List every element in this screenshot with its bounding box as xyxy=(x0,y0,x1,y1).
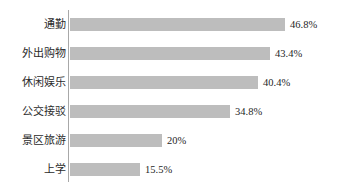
bar xyxy=(70,134,162,147)
bar-row: 公交接驳 34.8% xyxy=(0,105,339,118)
bar xyxy=(70,18,285,31)
bar-row: 上学 15.5% xyxy=(0,163,339,176)
bar xyxy=(70,163,140,176)
value-label: 46.8% xyxy=(290,18,317,31)
bar-row: 外出购物 43.4% xyxy=(0,47,339,60)
category-label: 景区旅游 xyxy=(0,133,66,148)
value-label: 15.5% xyxy=(145,163,172,176)
bar-row: 景区旅游 20% xyxy=(0,134,339,147)
bar-chart: 通勤 46.8% 外出购物 43.4% 休闲娱乐 40.4% 公交接驳 34.8… xyxy=(0,0,339,182)
category-label: 公交接驳 xyxy=(0,104,66,119)
value-label: 43.4% xyxy=(275,47,302,60)
value-label: 34.8% xyxy=(235,105,262,118)
bar-row: 通勤 46.8% xyxy=(0,18,339,31)
category-label: 休闲娱乐 xyxy=(0,75,66,90)
value-label: 40.4% xyxy=(263,76,290,89)
category-label: 上学 xyxy=(0,162,66,177)
plot-area: 通勤 46.8% 外出购物 43.4% 休闲娱乐 40.4% 公交接驳 34.8… xyxy=(0,0,339,182)
bar-row: 休闲娱乐 40.4% xyxy=(0,76,339,89)
bar xyxy=(70,47,270,60)
category-label: 通勤 xyxy=(0,17,66,32)
bar xyxy=(70,105,230,118)
value-label: 20% xyxy=(167,134,186,147)
category-label: 外出购物 xyxy=(0,46,66,61)
bar xyxy=(70,76,258,89)
